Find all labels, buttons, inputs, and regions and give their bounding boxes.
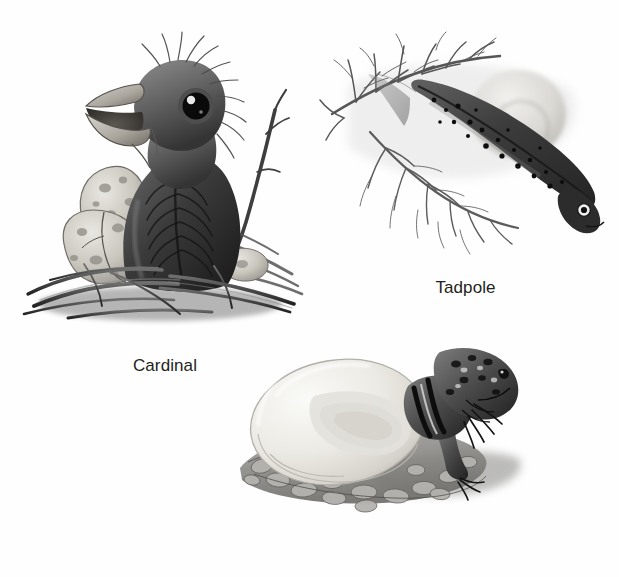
illustration-figure: Cardinal — [0, 0, 619, 577]
cardinal-illustration — [10, 22, 320, 342]
tadpole-illustration — [318, 26, 613, 266]
collared-lizard-illustration — [218, 330, 538, 545]
panel-lizard: Collared Lizard — [218, 330, 538, 565]
chick-eye — [178, 88, 214, 124]
caption-tadpole: Tadpole — [318, 278, 613, 298]
chick-head — [86, 32, 246, 168]
panel-cardinal: Cardinal — [10, 22, 320, 362]
panel-tadpole: Tadpole — [318, 26, 613, 286]
